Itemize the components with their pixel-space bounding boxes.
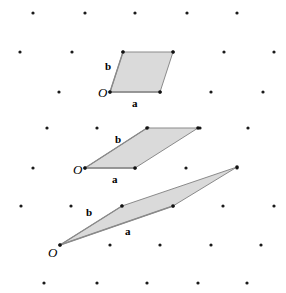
unit-cell-top: Oab (98, 50, 175, 109)
lattice-point (245, 281, 248, 284)
lattice-point (246, 126, 249, 129)
vector-b-label: b (86, 206, 92, 218)
lattice-point (221, 204, 224, 207)
vector-b-vertex-dot (121, 50, 125, 54)
vector-b-vertex-dot (145, 126, 149, 130)
lattice-point (261, 90, 264, 93)
origin-vertex-dot (58, 243, 62, 247)
lattice-point (184, 166, 187, 169)
vector-a-label: a (132, 97, 138, 109)
lattice-point (42, 281, 45, 284)
lattice-point (45, 126, 48, 129)
far-vertex-dot (196, 126, 200, 130)
lattice-point (95, 126, 98, 129)
lattice-point (95, 281, 98, 284)
origin-vertex-dot (83, 166, 87, 170)
vector-b-label: b (115, 133, 121, 145)
lattice-point (209, 243, 212, 246)
unit-cell-group: OabOabOab (48, 50, 239, 260)
far-vertex-dot (235, 165, 239, 169)
lattice-point (196, 281, 199, 284)
lattice-point (133, 11, 136, 14)
lattice-point (209, 90, 212, 93)
lattice-point (272, 204, 275, 207)
vector-a-vertex-dot (158, 90, 162, 94)
vector-b-label: b (105, 60, 111, 72)
lattice-point (222, 50, 225, 53)
lattice-point (70, 50, 73, 53)
vector-a-label: a (125, 225, 131, 237)
lattice-point (145, 281, 148, 284)
lattice-point (158, 243, 161, 246)
lattice-point (83, 11, 86, 14)
lattice-point (31, 11, 34, 14)
far-vertex-dot (171, 50, 175, 54)
lattice-diagram-canvas: OabOabOab (0, 0, 286, 293)
lattice-point (69, 204, 72, 207)
lattice-point (185, 11, 188, 14)
unit-cell-face (110, 52, 173, 92)
unit-cell-middle: Oab (73, 126, 200, 185)
unit-cell-face (85, 128, 198, 168)
lattice-point (272, 50, 275, 53)
lattice-point (259, 243, 262, 246)
lattice-point (235, 11, 238, 14)
vector-a-label: a (112, 173, 118, 185)
lattice-point (19, 204, 22, 207)
lattice-point (31, 166, 34, 169)
lattice-point (57, 90, 60, 93)
origin-vertex-dot (108, 90, 112, 94)
lattice-point (18, 50, 21, 53)
lattice-unit-cell-figure: OabOabOab (0, 0, 286, 293)
origin-label: O (48, 245, 58, 260)
origin-label: O (98, 85, 108, 100)
origin-label: O (73, 162, 83, 177)
vector-b-vertex-dot (120, 204, 124, 208)
vector-a-vertex-dot (171, 204, 175, 208)
vector-a-vertex-dot (133, 166, 137, 170)
lattice-point (108, 243, 111, 246)
